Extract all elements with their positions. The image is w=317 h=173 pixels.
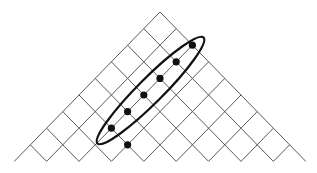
grid-line-down-left	[209, 112, 258, 162]
grid-line-down-left	[144, 78, 225, 161]
grid-line-down-right	[128, 45, 241, 161]
lattice-dot	[108, 125, 115, 132]
lattice-dot	[140, 91, 147, 98]
lattice-dot	[124, 141, 131, 148]
grid-line-down-right	[160, 12, 306, 161]
grid-line-down-right	[63, 112, 112, 162]
grid-line-down-right	[30, 145, 46, 162]
triangular-lattice-diagram	[0, 0, 317, 173]
lattice-grid	[14, 12, 306, 161]
lattice-dot	[189, 42, 196, 49]
grid-line-down-left	[273, 145, 289, 162]
lattice-dot	[173, 58, 180, 65]
lattice-dot	[156, 75, 163, 82]
lattice-dot	[124, 108, 131, 115]
